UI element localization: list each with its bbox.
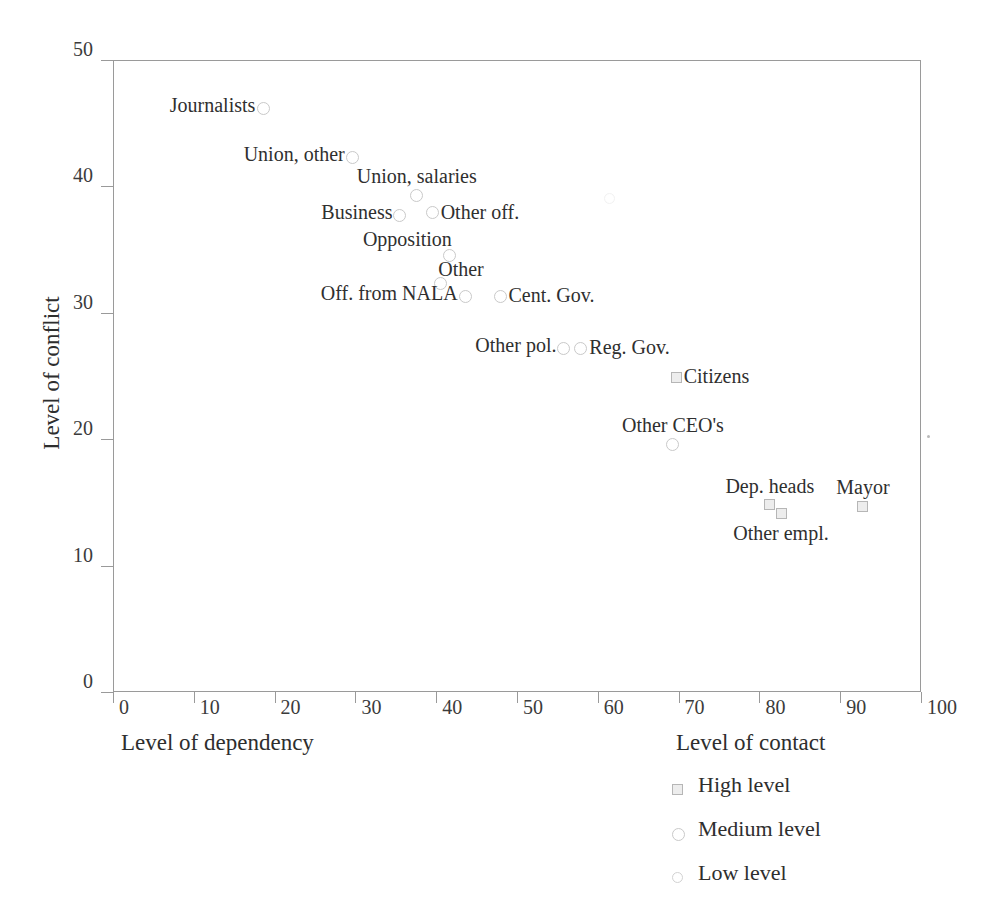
legend-label: High level [698, 772, 790, 798]
data-point-label: Dep. heads [725, 475, 814, 498]
data-point-label: Citizens [684, 365, 750, 388]
y-tick [101, 186, 113, 187]
x-tick-label: 30 [361, 696, 381, 719]
data-point-label: Cent. Gov. [509, 284, 595, 307]
y-tick [101, 313, 113, 314]
x-tick-label: 0 [119, 696, 129, 719]
x-tick [921, 692, 922, 703]
x-tick [840, 692, 841, 703]
y-axis-title: Level of conflict [39, 273, 65, 473]
stray-mark [927, 435, 930, 438]
data-point-marker [776, 508, 787, 519]
legend-item-high[interactable]: High level [672, 772, 972, 816]
y-tick [101, 692, 113, 693]
y-tick [101, 439, 113, 440]
data-point-marker [459, 290, 472, 303]
legend-item-low[interactable]: Low level [672, 860, 972, 904]
data-point-label: Journalists [170, 94, 256, 117]
print-artifact-dot [604, 193, 615, 204]
data-point-label: Other [438, 258, 484, 281]
data-point-marker [410, 189, 423, 202]
y-tick-label: 50 [0, 38, 93, 61]
plot-area [113, 60, 921, 692]
data-point-marker [494, 290, 507, 303]
legend: High levelMedium levelLow level [672, 772, 972, 904]
data-point-label: Other off. [441, 201, 520, 224]
x-tick [517, 692, 518, 703]
x-tick [113, 692, 114, 703]
legend-label: Medium level [698, 816, 821, 842]
x-axis-title-contact: Level of contact [676, 730, 825, 756]
legend-marker-icon [672, 872, 683, 883]
x-tick-label: 10 [200, 696, 220, 719]
data-point-marker [557, 342, 570, 355]
data-point-marker [857, 501, 868, 512]
x-tick [436, 692, 437, 703]
x-tick [194, 692, 195, 703]
y-tick-label: 10 [0, 544, 93, 567]
legend-item-medium[interactable]: Medium level [672, 816, 972, 860]
x-tick [275, 692, 276, 703]
x-tick-label: 60 [604, 696, 624, 719]
data-point-label: Business [321, 201, 392, 224]
x-tick-label: 80 [765, 696, 785, 719]
y-tick [101, 566, 113, 567]
data-point-label: Other empl. [733, 522, 829, 545]
x-tick-label: 100 [927, 696, 957, 719]
x-tick-label: 90 [846, 696, 866, 719]
data-point-marker [346, 151, 359, 164]
y-tick-label: 0 [0, 670, 93, 693]
data-point-label: Union, other [244, 143, 345, 166]
data-point-label: Other pol. [475, 334, 556, 357]
x-tick [679, 692, 680, 703]
x-tick-label: 70 [685, 696, 705, 719]
data-point-marker [574, 342, 587, 355]
y-tick-label: 40 [0, 164, 93, 187]
scatter-chart: 0102030405060708090100 01020304050 Journ… [0, 0, 1004, 913]
x-tick [355, 692, 356, 703]
legend-marker-icon [672, 784, 683, 795]
x-tick-label: 20 [281, 696, 301, 719]
data-point-label: Mayor [836, 476, 889, 499]
data-point-marker [671, 372, 682, 383]
x-tick-label: 40 [442, 696, 462, 719]
data-point-label: Reg. Gov. [589, 336, 669, 359]
data-point-label: Other CEO's [622, 414, 724, 437]
legend-marker-icon [672, 828, 685, 841]
x-axis-title-dependency: Level of dependency [121, 730, 314, 756]
data-point-label: Union, salaries [357, 165, 477, 188]
legend-label: Low level [698, 860, 787, 886]
x-tick [759, 692, 760, 703]
x-tick [598, 692, 599, 703]
data-point-marker [764, 499, 775, 510]
y-tick [101, 60, 113, 61]
x-tick-label: 50 [523, 696, 543, 719]
data-point-label: Opposition [363, 228, 452, 251]
data-point-marker [257, 102, 270, 115]
data-point-label: Off. from NALA [321, 282, 458, 305]
